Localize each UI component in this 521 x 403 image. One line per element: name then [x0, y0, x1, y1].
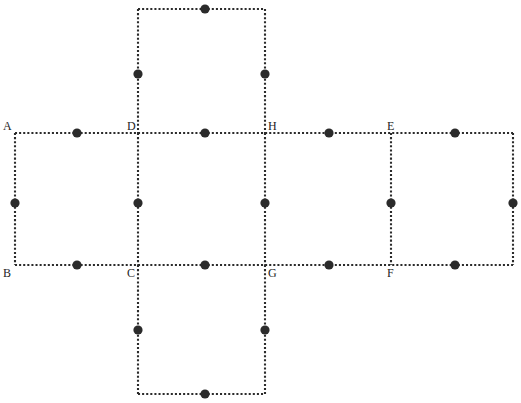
- vertex-label-h: H: [268, 120, 277, 132]
- dot-divider-h-g: [260, 198, 269, 207]
- dot-top-square-left: [133, 69, 142, 78]
- dot-left-square-left: [10, 198, 19, 207]
- dot-b-c-bottom: [72, 260, 81, 269]
- vertex-label-a: A: [3, 120, 12, 132]
- dot-right-square-right: [508, 198, 517, 207]
- cube-net-svg: [0, 0, 521, 403]
- dot-bottom-square-left: [133, 325, 142, 334]
- dot-g-f-bottom: [324, 260, 333, 269]
- dot-bottom-square-right: [260, 325, 269, 334]
- vertex-label-b: B: [3, 267, 11, 279]
- dot-bottom-square-bottom: [200, 389, 209, 398]
- vertex-label-g: G: [268, 267, 277, 279]
- vertex-label-e: E: [387, 120, 394, 132]
- dot-e-right-top: [450, 128, 459, 137]
- dot-h-e-top: [324, 128, 333, 137]
- dot-divider-e-f: [386, 198, 395, 207]
- dot-d-h-top: [200, 128, 209, 137]
- dot-a-d-top: [72, 128, 81, 137]
- vertex-label-c: C: [127, 267, 135, 279]
- dot-top-square-top: [200, 4, 209, 13]
- dot-divider-d-c: [133, 198, 142, 207]
- dot-top-square-right: [260, 69, 269, 78]
- vertex-label-f: F: [387, 267, 394, 279]
- dot-c-g-bottom: [200, 260, 209, 269]
- dot-f-right-bottom: [450, 260, 459, 269]
- vertex-label-d: D: [127, 120, 136, 132]
- cube-net-figure: ADHEBCGF: [0, 0, 521, 403]
